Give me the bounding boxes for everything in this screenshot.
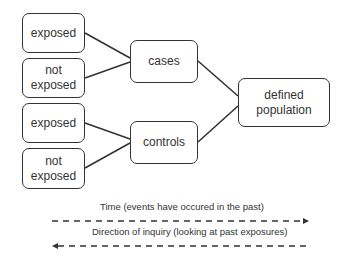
box-label: controls	[143, 135, 185, 150]
connector-exposed-cases	[85, 33, 130, 58]
exposed-box-controls: exposed	[22, 103, 85, 143]
time-arrow-head-icon	[303, 218, 309, 224]
defined-population-box: defined population	[238, 78, 330, 127]
box-label: defined population	[249, 88, 319, 118]
box-label: exposed	[31, 26, 76, 41]
exposed-box-cases: exposed	[22, 13, 85, 53]
not-exposed-box-cases: not exposed	[22, 58, 85, 98]
connector-notexposed-cases	[85, 62, 130, 78]
connector-exposed-controls	[85, 123, 130, 139]
not-exposed-box-controls: not exposed	[22, 148, 85, 189]
box-label: not exposed	[31, 154, 76, 184]
connector-cases-population	[198, 61, 238, 96]
connector-controls-population	[198, 106, 238, 142]
inquiry-arrow-label: Direction of inquiry (looking at past ex…	[92, 226, 287, 237]
connector-notexposed-controls	[85, 143, 130, 168]
cases-box: cases	[130, 40, 198, 83]
box-label: cases	[148, 54, 179, 69]
box-label: exposed	[31, 116, 76, 131]
inquiry-arrow-head-icon	[52, 243, 58, 249]
controls-box: controls	[130, 121, 198, 164]
box-label: not exposed	[31, 63, 76, 93]
time-arrow-label: Time (events have occured in the past)	[100, 201, 264, 212]
